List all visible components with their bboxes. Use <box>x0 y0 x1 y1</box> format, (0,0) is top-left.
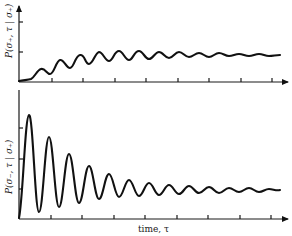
top-y-label: P(σ₊, τ | σ₊) <box>4 3 15 59</box>
figure: P(σ₊, τ | σ₊) P(σ₋, τ | σ₊) time, τ <box>0 0 292 236</box>
bottom-panel: P(σ₋, τ | σ₊) time, τ <box>4 90 288 234</box>
top-panel: P(σ₊, τ | σ₊) <box>4 3 288 82</box>
bottom-curve <box>19 115 280 218</box>
bottom-y-label: P(σ₋, τ | σ₊) <box>4 139 15 195</box>
x-axis-label: time, τ <box>138 224 169 234</box>
top-curve <box>19 51 280 81</box>
